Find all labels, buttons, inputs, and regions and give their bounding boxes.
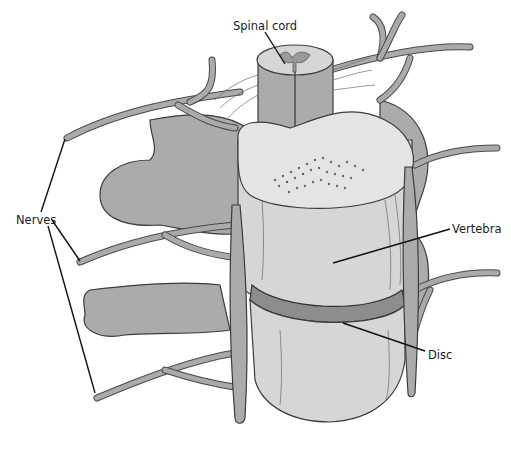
label-nerves: Nerves xyxy=(16,213,56,227)
spine-diagram: Spinal cord Nerves Vertebra Disc xyxy=(0,0,511,455)
label-spinal-cord: Spinal cord xyxy=(233,19,297,33)
label-vertebra: Vertebra xyxy=(452,222,501,236)
vertebra xyxy=(238,112,414,308)
label-disc: Disc xyxy=(428,348,452,362)
nerves-left xyxy=(67,60,240,398)
